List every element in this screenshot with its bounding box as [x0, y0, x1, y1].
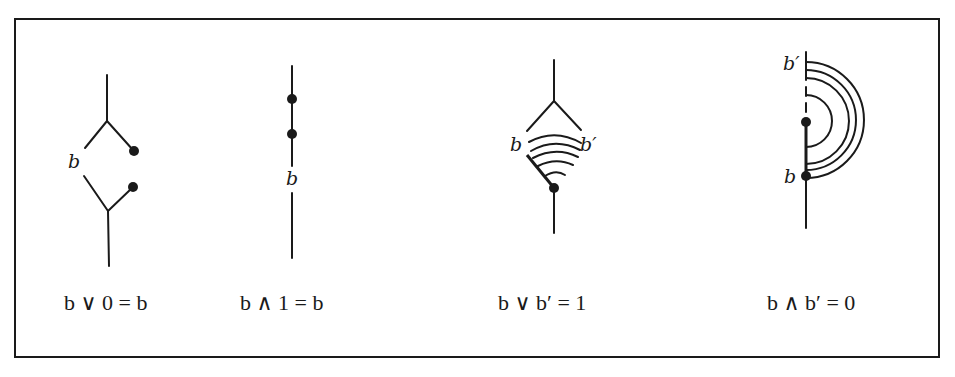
node-dot — [129, 146, 139, 156]
panel-join-complement: b b′ — [510, 60, 597, 233]
edge — [85, 121, 107, 148]
node-label-b-prime: b′ — [580, 133, 597, 155]
arc — [533, 152, 578, 158]
edge — [108, 188, 132, 211]
node-dot — [801, 117, 811, 127]
panel-meet-complement: b′ b — [783, 52, 864, 228]
node-dot — [801, 171, 811, 181]
node-label-b-prime: b′ — [783, 52, 800, 74]
edge — [107, 121, 133, 150]
caption-meet-complement: b ∧ b′ = 0 — [767, 290, 855, 316]
arc — [545, 172, 565, 176]
panel-join-zero: b — [68, 75, 139, 266]
caption-join-zero: b ∨ 0 = b — [64, 290, 148, 316]
edge — [554, 101, 581, 130]
edge — [527, 155, 554, 188]
node-dot — [287, 129, 297, 139]
arc — [531, 144, 580, 151]
diagram-canvas: b b b b′ b′ b — [0, 0, 955, 377]
node-dot — [128, 182, 138, 192]
node-label-b: b — [68, 150, 80, 172]
node-label-b: b — [784, 165, 796, 187]
arc — [806, 78, 849, 164]
arc — [529, 135, 581, 143]
edge — [108, 211, 109, 266]
node-label-b: b — [510, 133, 522, 155]
caption-join-complement: b ∨ b′ = 1 — [498, 290, 586, 316]
panel-meet-one: b — [286, 66, 298, 258]
node-dot — [287, 94, 297, 104]
edge — [527, 101, 554, 131]
caption-meet-one: b ∧ 1 = b — [240, 290, 324, 316]
arc — [538, 161, 573, 166]
node-label-b: b — [286, 167, 298, 189]
edge — [84, 176, 108, 211]
